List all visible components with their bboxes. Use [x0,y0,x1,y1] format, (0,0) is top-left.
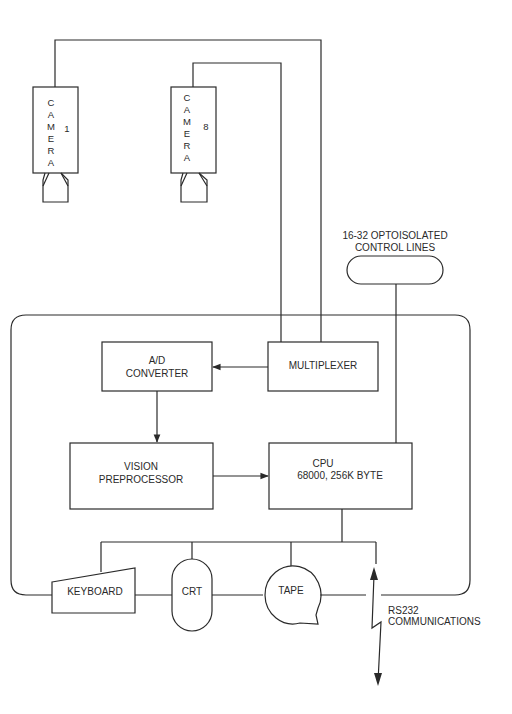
svg-text:16-32 OPTOISOLATED: 16-32 OPTOISOLATED [342,230,447,241]
camera-1-letter: R [48,145,55,156]
camera-8-number: 8 [203,121,208,132]
svg-text:CRT: CRT [182,586,202,597]
svg-text:COMMUNICATIONS: COMMUNICATIONS [388,616,481,627]
camera-8-letter: R [184,140,191,151]
camera-8-letter: C [184,92,191,103]
camera-8-letter: E [184,128,190,139]
vision-preprocessor-block: VISION PREPROCESSOR [70,443,213,509]
rs232-link: RS232 COMMUNICATIONS [370,567,481,686]
camera-1-letter: A [48,109,55,120]
svg-text:CONVERTER: CONVERTER [126,368,189,379]
svg-text:MULTIPLEXER: MULTIPLEXER [289,360,358,371]
svg-text:KEYBOARD: KEYBOARD [67,586,123,597]
svg-text:PREPROCESSOR: PREPROCESSOR [99,474,183,485]
keyboard-peripheral: KEYBOARD [52,568,135,613]
svg-text:VISION: VISION [124,461,158,472]
camera-1-letter: C [48,97,55,108]
ad-converter-block: A/D CONVERTER [102,342,212,391]
svg-text:RS232: RS232 [388,605,419,616]
vision-system-block-diagram: C A M E R A 1 C A M E R A 8 16-32 OPTOIS… [0,0,512,714]
svg-text:CONTROL LINES: CONTROL LINES [355,242,436,253]
cpu-block: CPU 68000, 256K BYTE [269,443,412,509]
svg-text:TAPE: TAPE [278,585,304,596]
camera-8-letter: A [184,104,191,115]
camera-1-number: 1 [64,123,69,134]
camera-1-letter: E [48,133,54,144]
camera-8: C A M E R A 8 [171,87,216,202]
crt-peripheral: CRT [172,559,212,631]
camera-1: C A M E R A 1 [33,87,78,202]
camera-1-letter: A [48,157,55,168]
peripheral-bus [101,509,376,572]
svg-text:A/D: A/D [149,355,166,366]
camera-wires [55,40,321,342]
multiplexer-block: MULTIPLEXER [268,342,378,391]
control-lines: 16-32 OPTOISOLATED CONTROL LINES [342,230,447,443]
svg-text:CPU: CPU [312,458,333,469]
camera-1-letter: M [47,121,55,132]
svg-text:68000, 256K BYTE: 68000, 256K BYTE [297,470,383,481]
camera-8-letter: A [184,152,191,163]
camera-8-letter: M [183,116,191,127]
tape-peripheral: TAPE [265,566,321,624]
